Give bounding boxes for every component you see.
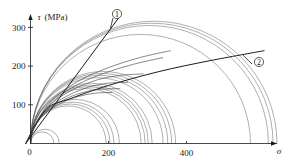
axis-labels-layer: 0100200300200400τ(MPa)σ12 — [12, 9, 282, 157]
envelope-6 — [26, 82, 128, 143]
mohr-circle — [31, 106, 107, 144]
mohr-circle — [31, 104, 111, 143]
x-axis-tick-label: 400 — [180, 148, 194, 158]
y-axis-tick-label: 100 — [12, 100, 26, 110]
mohr-circle — [31, 132, 54, 144]
mohr-circles-layer — [31, 21, 277, 143]
mohr-circle-figure: 0100200300200400τ(MPa)σ12 τ (MPa) σ ① ② — [0, 0, 284, 168]
envelope-2-curved — [26, 51, 265, 144]
callout-1-text: 1 — [115, 10, 119, 19]
x-axis-tick-label: 200 — [102, 148, 116, 158]
y-axis-title-symbol: τ — [38, 12, 42, 22]
y-axis-title-unit: (MPa) — [45, 12, 68, 22]
callout-leader-line — [243, 55, 252, 64]
mohr-circle — [31, 21, 277, 143]
callout-2-text: 2 — [257, 58, 261, 67]
y-axis-tick-label: 200 — [12, 61, 26, 71]
y-axis-arrow — [28, 14, 32, 20]
envelope-1-straight — [26, 16, 120, 144]
axes-layer — [28, 14, 277, 146]
mohr-circle-plot: 0100200300200400τ(MPa)σ12 — [0, 0, 284, 168]
y-axis-tick-label: 300 — [12, 23, 26, 33]
y-axis-tick-label-0: 0 — [27, 147, 32, 157]
x-axis-title-symbol: σ — [277, 146, 282, 156]
